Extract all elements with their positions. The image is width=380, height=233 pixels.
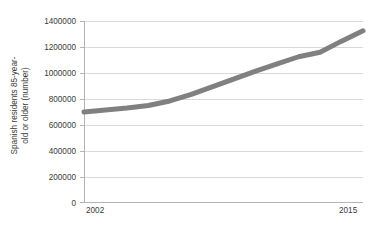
y-tick-label: 800000 bbox=[49, 95, 76, 104]
x-tick-label: 2015 bbox=[339, 206, 357, 215]
y-axis-title-line-1: Spanish residents 85-year- bbox=[11, 56, 22, 154]
y-tick-label: 600000 bbox=[49, 121, 76, 130]
plot-area bbox=[84, 21, 363, 203]
chart-screenshot: Spanish residents 85-year- old or older … bbox=[0, 0, 380, 233]
y-tick-label: 1000000 bbox=[44, 69, 76, 78]
y-axis-title-line-2: old or older (number) bbox=[21, 56, 32, 154]
y-axis-tick-labels: 1400000 1200000 1000000 800000 600000 40… bbox=[34, 0, 80, 233]
y-tick-label: 1200000 bbox=[44, 43, 76, 52]
y-axis-title: Spanish residents 85-year- old or older … bbox=[8, 0, 34, 210]
series-line bbox=[84, 21, 363, 203]
y-tick-label: 200000 bbox=[49, 173, 76, 182]
x-axis-tick-labels: 2002 2015 bbox=[0, 206, 380, 226]
y-tick-label: 400000 bbox=[49, 147, 76, 156]
y-tick-label: 1400000 bbox=[44, 17, 76, 26]
x-tick-label: 2002 bbox=[86, 206, 104, 215]
